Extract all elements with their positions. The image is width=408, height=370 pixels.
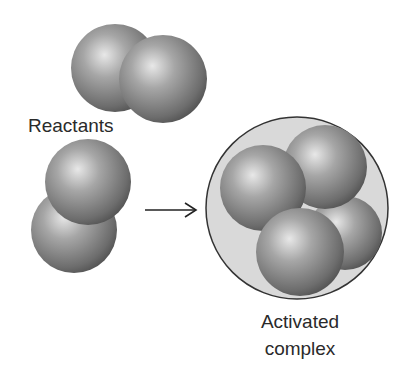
activated-complex-label-line1: Activated (250, 308, 350, 335)
activated-complex-label: Activated complex (250, 308, 350, 362)
atom-sphere (256, 208, 344, 296)
reactants-label: Reactants (28, 114, 114, 138)
activated-complex-label-line2: complex (250, 335, 350, 362)
reaction-arrow-icon (145, 203, 196, 217)
reactant-molecule-bottom (31, 139, 131, 273)
activated-complex (206, 117, 388, 299)
reactant-molecule-top (71, 24, 207, 123)
atom-sphere (45, 139, 131, 225)
atom-sphere (119, 35, 207, 123)
